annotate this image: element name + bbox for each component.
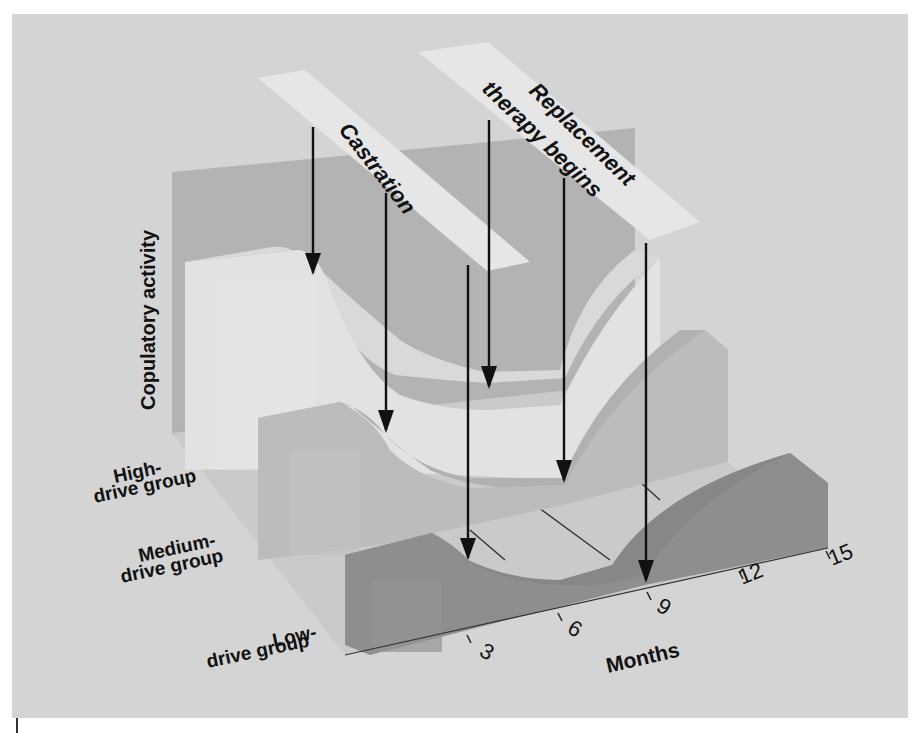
copulatory-activity-chart: 3 6 9 12 15 Months Copulatory activity H… — [0, 0, 912, 733]
y-axis-title: Copulatory activity — [137, 229, 159, 410]
